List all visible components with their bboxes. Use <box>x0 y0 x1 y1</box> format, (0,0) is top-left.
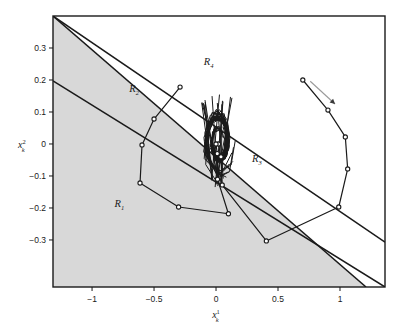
region-label: R3 <box>251 153 262 166</box>
region-label: R4 <box>203 56 214 69</box>
figure-container: −1−0.500.51 0.30.20.10−0.1−0.2−0.3 R1R2R… <box>0 0 400 332</box>
trajectory-marker <box>346 167 350 171</box>
trajectory-marker <box>219 155 223 159</box>
trajectory-marker <box>301 78 305 82</box>
region-label-subscript: 3 <box>258 159 263 166</box>
x-axis-title-sub: k <box>216 316 219 323</box>
trajectory-marker <box>140 143 144 147</box>
y-tick-label: 0.1 <box>34 107 46 117</box>
y-axis-title-sup: 2 <box>22 138 25 145</box>
y-tick-label: 0.3 <box>34 43 46 53</box>
trajectory-marker <box>152 117 156 121</box>
x-tick-label: −1 <box>87 294 97 304</box>
x-tick-label: 1 <box>338 294 343 304</box>
trajectory-marker <box>264 239 268 243</box>
y-tick-label: −0.3 <box>29 235 46 245</box>
trajectory-marker <box>215 151 219 155</box>
x-tick-label: 0 <box>214 294 219 304</box>
trajectory-marker <box>215 177 219 181</box>
trajectory-marker <box>326 108 330 112</box>
svg-text:x1k: x1k <box>211 308 220 323</box>
region-label-subscript: 1 <box>121 204 124 211</box>
svg-text:x2k: x2k <box>17 138 26 153</box>
trajectory-marker <box>138 181 142 185</box>
y-tick-label: 0 <box>41 139 46 149</box>
x-tick-label: −0.5 <box>146 294 163 304</box>
y-tick-label: −0.1 <box>29 171 46 181</box>
y-axis-title: x2k <box>17 138 26 153</box>
trajectory-marker <box>337 205 341 209</box>
x-axis-title-sup: 1 <box>217 308 220 315</box>
trajectory-marker <box>178 85 182 89</box>
trajectory-marker <box>176 205 180 209</box>
trajectory-marker <box>226 212 230 216</box>
region-label-subscript: 4 <box>210 62 214 69</box>
phase-plot-svg: −1−0.500.51 0.30.20.10−0.1−0.2−0.3 R1R2R… <box>0 0 400 332</box>
y-tick-label: −0.2 <box>29 203 46 213</box>
x-axis-ticks-group: −1−0.500.51 <box>87 287 342 304</box>
x-axis-title: x1k <box>211 308 220 323</box>
y-axis-ticks-group: 0.30.20.10−0.1−0.2−0.3 <box>29 43 53 245</box>
trajectory-marker <box>343 135 347 139</box>
trajectory-marker <box>220 183 224 187</box>
trajectory-marker <box>214 142 218 146</box>
y-tick-label: 0.2 <box>34 75 46 85</box>
y-axis-title-sub: k <box>22 146 25 153</box>
x-tick-label: 0.5 <box>272 294 284 304</box>
